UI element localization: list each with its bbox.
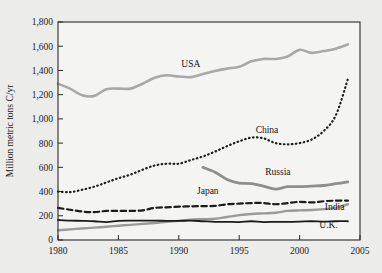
x-tick-label: 1995 xyxy=(230,246,249,256)
x-tick-label: 2000 xyxy=(290,246,309,256)
x-tick-label: 1990 xyxy=(169,246,188,256)
x-tick-label: 2005 xyxy=(351,246,370,256)
y-tick-label: 200 xyxy=(39,211,54,221)
y-tick-label: 1,400 xyxy=(32,66,54,76)
y-tick-label: 1,000 xyxy=(32,114,54,124)
y-tick-label: 400 xyxy=(39,187,54,197)
chart-figure: 02004006008001,0001,2001,4001,6001,800 1… xyxy=(0,0,382,273)
series-label-china: China xyxy=(256,125,279,135)
series-label-japan: Japan xyxy=(197,186,219,196)
x-tick-label: 1985 xyxy=(109,246,128,256)
series-label-usa: USA xyxy=(181,59,200,69)
x-tick-label: 1980 xyxy=(49,246,68,256)
series-label-uk: U.K. xyxy=(319,220,337,230)
series-label-russia: Russia xyxy=(265,167,291,177)
y-tick-label: 1,800 xyxy=(32,17,54,27)
svg-text:Million metric tons C/yr: Million metric tons C/yr xyxy=(5,84,15,177)
y-tick-label: 1,600 xyxy=(32,42,54,52)
y-axis-title: Million metric tons C/yr xyxy=(5,84,15,177)
y-tick-label: 800 xyxy=(39,139,54,149)
y-tick-label: 600 xyxy=(39,163,54,173)
chart-background xyxy=(0,0,382,273)
y-tick-label: 0 xyxy=(48,235,53,245)
y-tick-label: 1,200 xyxy=(32,90,54,100)
series-label-india: India xyxy=(325,202,345,212)
emissions-line-chart: 02004006008001,0001,2001,4001,6001,800 1… xyxy=(0,0,382,273)
